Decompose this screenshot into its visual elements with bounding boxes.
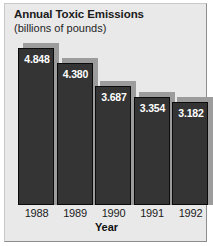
bar-value-label: 3.354 [135, 102, 171, 114]
bar-1988[interactable]: 4.848 [18, 48, 54, 205]
x-tick-label-1989: 1989 [55, 207, 96, 219]
bar-value-label: 4.848 [19, 53, 55, 65]
x-tick-label-1990: 1990 [93, 207, 134, 219]
x-axis-title: Year [10, 221, 203, 233]
chart-subtitle: (billions of pounds) [14, 22, 194, 35]
bar-1989[interactable]: 4.380 [57, 63, 93, 205]
x-tick-label-1992: 1992 [170, 207, 211, 219]
page-title: Annual Toxic Emissions [14, 8, 194, 21]
chart-frame: Annual Toxic Emissions (billions of poun… [4, 3, 207, 242]
bar-1991[interactable]: 3.354 [134, 97, 170, 205]
x-tick-label-1991: 1991 [132, 207, 173, 219]
bar-1990[interactable]: 3.687 [95, 86, 131, 205]
x-tick-label-1988: 1988 [16, 207, 57, 219]
plot-area: 4.8484.3803.6873.3543.182 [10, 37, 203, 205]
title-block: Annual Toxic Emissions (billions of poun… [14, 8, 194, 35]
bar-value-label: 4.380 [58, 68, 94, 80]
bar-value-label: 3.687 [96, 91, 132, 103]
x-axis-tick-labels: 19881989199019911992 [10, 207, 203, 221]
bar-value-label: 3.182 [173, 107, 209, 119]
bar-1992[interactable]: 3.182 [172, 102, 208, 205]
